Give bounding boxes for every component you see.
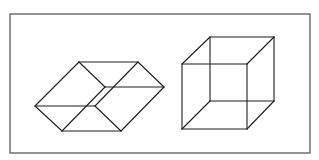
rhombic-hexagon-figure-edge [138,62,164,87]
rhombic-hexagon-figure-edge [79,62,105,87]
rhombic-hexagon-figure-edge [95,106,121,131]
rhombic-hexagon-figure-edge [35,62,79,106]
wireframe-cube-edge [247,37,274,64]
wireframe-cube-edge [247,101,274,129]
wireframe-cube-edge [182,37,210,64]
rhombic-hexagon-figure [35,62,164,131]
wireframe-cube [182,37,274,129]
figure-canvas [0,0,319,160]
rhombic-hexagon-figure-edge [121,87,164,131]
wireframe-cube-edge [182,101,210,129]
rhombic-hexagon-figure-edge [35,106,62,131]
